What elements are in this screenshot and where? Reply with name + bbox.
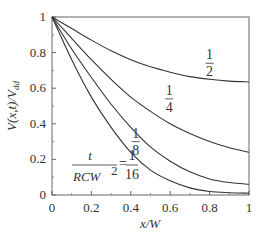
x-tick-label: 0 bbox=[49, 200, 56, 215]
curve-1-8 bbox=[52, 17, 249, 184]
y-tick-label: 0.4 bbox=[30, 116, 47, 131]
curve-label-1-4: 14 bbox=[165, 83, 173, 115]
x-tick-label: 0.6 bbox=[162, 200, 179, 215]
label-numerator: 1 bbox=[132, 126, 139, 141]
curve-1-4 bbox=[52, 17, 249, 152]
axes: 00.20.40.60.8100.20.40.60.81 bbox=[30, 9, 253, 215]
x-tick-label: 0.4 bbox=[123, 200, 140, 215]
y-axis-label-sub: dd bbox=[11, 81, 21, 91]
y-axis-label-main: V(x,t)/V bbox=[4, 88, 19, 131]
curve-1-16 bbox=[52, 17, 249, 193]
y-tick-label: 1 bbox=[40, 9, 47, 24]
time-annotation: t RCW 2 = bbox=[72, 148, 127, 184]
y-tick-label: 0.8 bbox=[30, 45, 46, 60]
curve-label-1-2: 12 bbox=[206, 47, 214, 79]
label-denominator: 4 bbox=[166, 100, 173, 115]
y-tick-label: 0 bbox=[40, 187, 47, 202]
y-tick-label: 0.6 bbox=[30, 80, 47, 95]
annotation-numerator: t bbox=[88, 148, 92, 163]
annotation-equals: = bbox=[119, 156, 127, 171]
label-numerator: 1 bbox=[166, 83, 173, 98]
annotation-denominator: RCW bbox=[72, 169, 102, 184]
label-denominator: 2 bbox=[206, 64, 213, 79]
x-tick-label: 0.2 bbox=[83, 200, 99, 215]
y-axis-label: V(x,t)/Vdd bbox=[4, 81, 21, 131]
label-numerator: 1 bbox=[129, 148, 136, 163]
label-denominator: 16 bbox=[125, 167, 139, 182]
chart: 00.20.40.60.8100.20.40.60.81 121418116 x… bbox=[0, 0, 261, 240]
y-tick-label: 0.2 bbox=[30, 151, 46, 166]
label-numerator: 1 bbox=[206, 47, 213, 62]
annotation-exponent: 2 bbox=[111, 163, 118, 178]
x-axis-label: x/W bbox=[139, 216, 161, 231]
curves bbox=[52, 17, 249, 193]
x-tick-label: 1 bbox=[246, 200, 253, 215]
x-tick-label: 0.8 bbox=[201, 200, 217, 215]
labels: 121418116 bbox=[125, 47, 214, 182]
